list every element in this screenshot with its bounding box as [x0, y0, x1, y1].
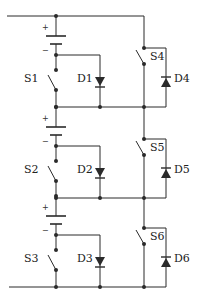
battery-3-minus: −	[42, 227, 49, 235]
diode-label-d3: D3	[77, 253, 93, 265]
switch-label-s6: S6	[150, 231, 165, 243]
battery-1-plus: +	[42, 24, 49, 32]
battery-3-plus: +	[42, 204, 49, 212]
switch-label-s2: S2	[24, 164, 39, 176]
switch-label-s4: S4	[150, 51, 165, 63]
diode-label-d1: D1	[77, 73, 93, 85]
switch-label-s5: S5	[150, 142, 165, 154]
battery-2-plus: +	[42, 115, 49, 123]
diode-label-d6: D6	[174, 253, 190, 265]
battery-1-minus: −	[42, 47, 49, 55]
switch-label-s1: S1	[24, 73, 39, 85]
diode-label-d4: D4	[174, 73, 190, 85]
switch-label-s3: S3	[24, 253, 39, 265]
diode-label-d2: D2	[77, 164, 93, 176]
diode-label-d5: D5	[174, 164, 190, 176]
battery-2-minus: −	[42, 138, 49, 146]
